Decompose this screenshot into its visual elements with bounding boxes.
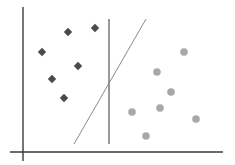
circle-point <box>153 68 161 76</box>
circle-point <box>128 108 136 116</box>
circle-point <box>192 115 200 123</box>
circle-point <box>167 88 175 96</box>
scatter-diagram <box>0 0 235 165</box>
circle-point <box>180 48 188 56</box>
background <box>0 0 235 165</box>
circle-point <box>142 132 150 140</box>
circle-point <box>156 104 164 112</box>
